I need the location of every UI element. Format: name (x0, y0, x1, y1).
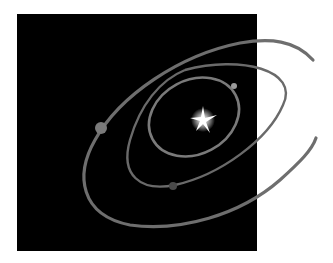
orbit-illustration (0, 0, 333, 263)
middle-planet (169, 182, 177, 190)
outer-planet (95, 122, 107, 134)
inner-planet (231, 83, 237, 89)
